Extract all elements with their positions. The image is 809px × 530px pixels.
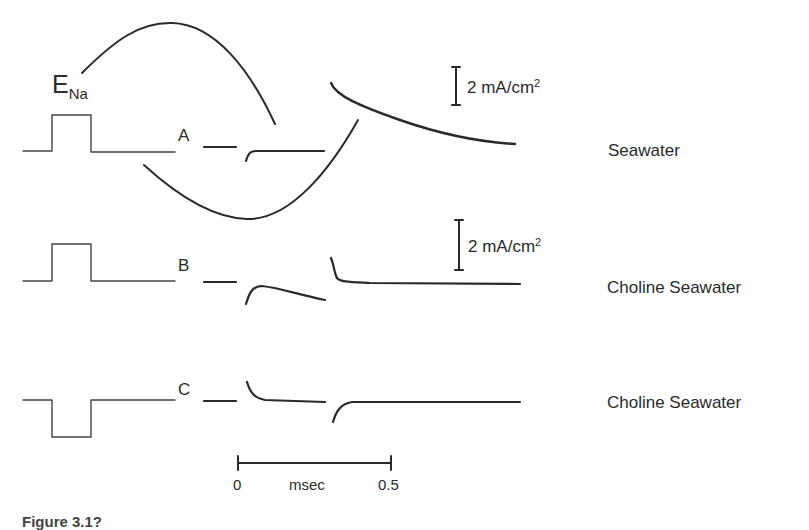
- ena-main: E: [52, 70, 69, 98]
- row-a-label: A: [178, 127, 189, 144]
- row-b-condition: Choline Seawater: [607, 279, 741, 296]
- row-b-early-current-trace: [246, 286, 325, 304]
- row-b-scale-label: 2 mA/cm2: [468, 237, 541, 255]
- time-scale-unit: msec: [289, 477, 325, 492]
- ena-subscript: Na: [69, 85, 88, 102]
- row-a-scale-label: 2 mA/cm2: [467, 78, 540, 96]
- row-c-traces: [23, 382, 520, 437]
- row-a-early-current-trace: [246, 151, 324, 161]
- row-a-voltage-pulse: [23, 115, 175, 152]
- row-c-tail-current-trace: [333, 402, 520, 422]
- row-c-condition: Choline Seawater: [607, 394, 741, 411]
- row-b-voltage-pulse: [23, 244, 175, 281]
- row-a-condition: Seawater: [608, 142, 680, 159]
- row-c-early-current-trace: [247, 382, 325, 402]
- ena-label: ENa: [52, 72, 88, 101]
- row-b-traces: [23, 220, 520, 304]
- arrow-ena-to-early-trace: [82, 23, 275, 124]
- time-scale-end: 0.5: [378, 477, 399, 492]
- row-b-tail-current-trace: [331, 258, 520, 284]
- row-b-label: B: [178, 257, 189, 274]
- figure-caption: Figure 3.1?: [22, 514, 102, 529]
- row-c-voltage-pulse: [23, 400, 175, 437]
- arrow-pulse-end-to-tail-trace: [144, 120, 358, 219]
- time-scale-bar: [238, 456, 391, 470]
- time-scale-start: 0: [233, 477, 241, 492]
- row-c-label: C: [178, 381, 190, 398]
- row-a-traces: [23, 67, 515, 161]
